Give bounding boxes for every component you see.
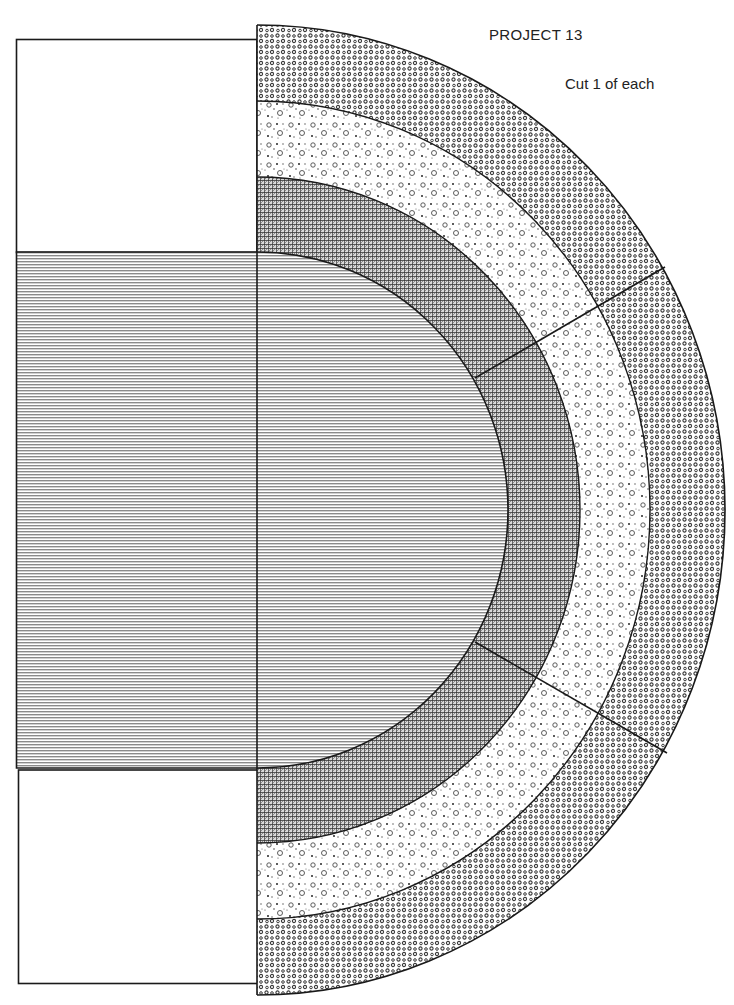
project-title: PROJECT 13 bbox=[489, 26, 583, 43]
bottom-rectangle-piece bbox=[19, 770, 259, 984]
quilt-pattern-diagram bbox=[0, 0, 734, 1005]
cut-instruction: Cut 1 of each bbox=[565, 75, 654, 92]
center-striped-piece bbox=[17, 252, 509, 768]
top-rectangle-piece bbox=[17, 40, 258, 253]
